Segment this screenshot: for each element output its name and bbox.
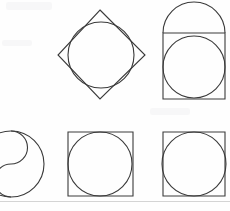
figure-circle-in-square-b (162, 132, 226, 196)
inscribed-circle (162, 132, 226, 196)
inscribed-circle (68, 22, 134, 88)
lower-s-arc (0, 164, 11, 197)
figure-circle-in-diamond (58, 10, 145, 99)
figure-circle-in-rect-with-dome (163, 2, 225, 99)
smudge-mark (2, 40, 32, 46)
scan-artifact-group (2, 2, 190, 115)
inscribed-circle (68, 132, 132, 196)
worksheet-page (0, 0, 230, 211)
figure-yin-yang (0, 131, 44, 197)
smudge-mark (6, 2, 52, 10)
upper-s-arc (11, 131, 28, 164)
diamond-outline (58, 10, 145, 99)
dome-semicircle (163, 2, 225, 33)
square-outline (163, 132, 225, 196)
inscribed-circle (163, 36, 225, 98)
geometry-figure-canvas (0, 0, 230, 211)
smudge-mark (150, 108, 190, 115)
figure-circle-in-square-a (68, 132, 133, 196)
